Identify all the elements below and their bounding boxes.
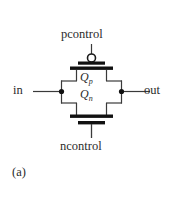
pmos-gate-bar <box>78 62 105 65</box>
output-label: out <box>144 84 160 97</box>
figure-caption: (a) <box>12 166 26 179</box>
pmos-device-label: Qp <box>80 71 93 86</box>
pmos-device-letter: Q <box>80 70 89 84</box>
pcontrol-label: pcontrol <box>61 28 103 41</box>
nmos-device-label: Qn <box>80 88 93 103</box>
junction-dot-icon-right <box>119 89 124 94</box>
pmos-device-subscript: p <box>89 77 93 86</box>
figure-panel: pcontrol ncontrol in out Qp Qn (a) <box>0 0 183 222</box>
nmos-device-subscript: n <box>89 94 93 103</box>
nmos-gate-bar <box>78 121 105 124</box>
ncontrol-label: ncontrol <box>60 140 102 153</box>
nmos-channel-bar <box>70 115 113 118</box>
input-label: in <box>13 84 23 97</box>
pmos-channel-bar <box>70 67 113 70</box>
junction-dot-icon-left <box>59 89 64 94</box>
nmos-device-letter: Q <box>80 87 89 101</box>
bubble-icon <box>88 54 96 62</box>
